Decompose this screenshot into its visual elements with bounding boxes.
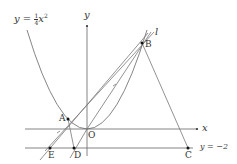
y-axis-label: y (84, 10, 90, 20)
parabola-equation-label: y = 1 4 x2 (14, 13, 48, 26)
y-minus-2-label: y = −2 (200, 143, 228, 151)
y-minus-2-text: y = −2 (200, 142, 228, 151)
label-D: D (74, 151, 81, 160)
label-C: C (185, 151, 192, 160)
x-axis-label: x (202, 123, 208, 133)
x-axis-arrow-icon (196, 128, 198, 130)
point-B (141, 42, 144, 45)
eq-exp: 2 (44, 12, 48, 19)
geometry-diagram: y = 1 4 x2 y x O l y = −2 A B C D E (0, 0, 237, 164)
line-OB (87, 32, 151, 129)
eq-lhs: y (14, 13, 20, 24)
line-through-E (40, 33, 148, 160)
label-E: E (48, 151, 55, 160)
y-axis-arrow-icon (86, 25, 88, 27)
tick-mark-1 (57, 131, 60, 133)
point-A (67, 118, 70, 121)
label-B: B (145, 40, 152, 49)
eq-sign: = (23, 13, 31, 24)
label-A: A (59, 114, 66, 123)
origin-label: O (88, 131, 95, 140)
line-l (45, 32, 154, 151)
line-l-label: l (155, 27, 158, 37)
segment-BC (142, 43, 188, 148)
